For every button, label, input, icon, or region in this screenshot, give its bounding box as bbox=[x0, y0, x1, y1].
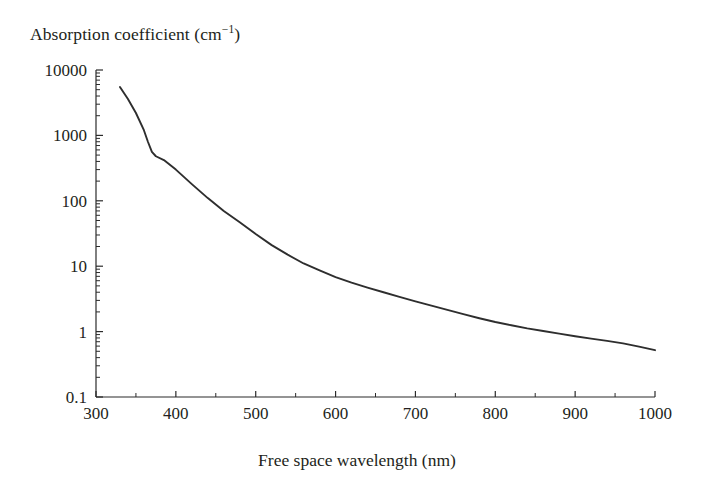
x-tick-label: 400 bbox=[163, 404, 189, 423]
x-axis-title: Free space wavelength (nm) bbox=[258, 450, 456, 470]
y-tick-label: 10000 bbox=[45, 61, 88, 80]
x-tick-label: 600 bbox=[323, 404, 349, 423]
y-axis-major-ticks bbox=[96, 70, 103, 397]
y-tick-label: 1000 bbox=[53, 126, 87, 145]
y-axis-tick-labels: 0.1110100100010000 bbox=[45, 61, 88, 407]
y-tick-label: 10 bbox=[70, 257, 87, 276]
chart-plot: 0.1110100100010000 300400500600700800900… bbox=[0, 0, 706, 483]
x-tick-label: 1000 bbox=[638, 404, 672, 423]
x-axis-tick-labels: 3004005006007008009001000 bbox=[83, 404, 672, 423]
x-tick-label: 800 bbox=[483, 404, 509, 423]
x-tick-label: 500 bbox=[243, 404, 269, 423]
chart-page: Absorption coefficient (cm−1) 0.11101001… bbox=[0, 0, 706, 483]
x-tick-label: 700 bbox=[403, 404, 429, 423]
x-tick-label: 300 bbox=[83, 404, 109, 423]
data-series-line bbox=[120, 87, 655, 350]
y-tick-label: 1 bbox=[79, 323, 88, 342]
x-tick-label: 900 bbox=[562, 404, 588, 423]
y-tick-label: 100 bbox=[62, 192, 88, 211]
